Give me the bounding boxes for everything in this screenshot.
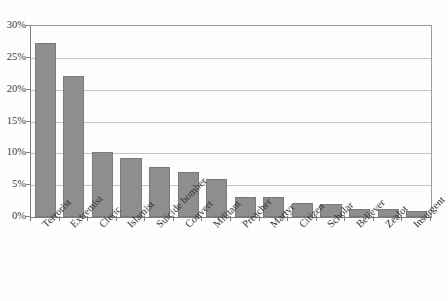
plot-area — [30, 25, 432, 218]
x-axis-labels: TerroristExtremistClericIslamistSuicide … — [30, 222, 432, 301]
x-axis-tick-mark — [30, 216, 31, 221]
bar — [63, 76, 84, 217]
bar — [35, 43, 56, 217]
bars-layer — [31, 26, 431, 217]
bar-chart: 0%5%10%15%20%25%30% TerroristExtremistCl… — [0, 0, 448, 301]
y-axis-ticks — [0, 25, 30, 216]
